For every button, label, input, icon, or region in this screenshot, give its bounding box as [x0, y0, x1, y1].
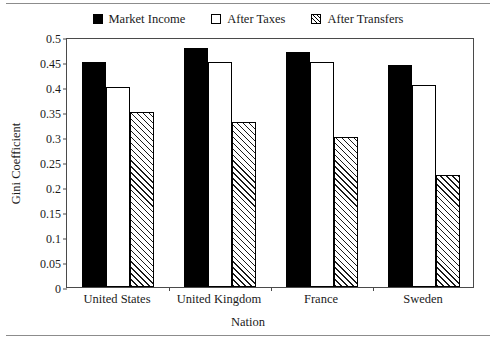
y-axis-title: Gini Coefficient — [8, 38, 26, 288]
bar — [106, 87, 130, 287]
bar — [130, 112, 154, 287]
x-axis-tick-label: United States — [83, 292, 150, 307]
chart-legend: Market IncomeAfter TaxesAfter Transfers — [0, 13, 496, 26]
x-axis-tick-mark — [373, 287, 374, 291]
legend-label: Market Income — [109, 13, 186, 26]
bar — [436, 175, 460, 288]
bar-group — [67, 39, 169, 287]
y-axis-title-text: Gini Coefficient — [10, 122, 25, 203]
legend-item: After Transfers — [311, 13, 403, 26]
bar — [232, 122, 256, 287]
legend-label: After Transfers — [327, 13, 403, 26]
bar — [412, 85, 436, 288]
legend-item: Market Income — [93, 13, 186, 26]
x-axis-tick-mark — [271, 287, 272, 291]
plot-area: 00.050.10.150.20.250.30.350.40.450.5 — [66, 38, 474, 288]
legend-swatch-empty-icon — [211, 14, 221, 24]
page-rule-top — [6, 3, 490, 4]
bar-group — [271, 39, 373, 287]
x-axis-title: Nation — [0, 315, 496, 330]
page-rule-bottom — [6, 335, 490, 336]
x-axis-tick-label: United Kingdom — [177, 292, 261, 307]
y-axis-tick-mark — [63, 289, 67, 290]
bar — [286, 52, 310, 287]
chart-figure: Market IncomeAfter TaxesAfter Transfers … — [0, 0, 496, 343]
bar-group — [373, 39, 475, 287]
bar — [208, 62, 232, 287]
bar — [184, 48, 208, 287]
legend-swatch-hatch-icon — [311, 14, 321, 24]
bar-group — [169, 39, 271, 287]
bar — [82, 62, 106, 287]
bar — [334, 137, 358, 287]
legend-item: After Taxes — [211, 13, 285, 26]
x-axis-tick-label: France — [304, 292, 338, 307]
legend-swatch-solid-icon — [93, 14, 103, 24]
x-axis-tick-label: Sweden — [403, 292, 443, 307]
bar — [310, 62, 334, 287]
legend-label: After Taxes — [227, 13, 285, 26]
bar — [388, 65, 412, 288]
x-axis-tick-mark — [169, 287, 170, 291]
